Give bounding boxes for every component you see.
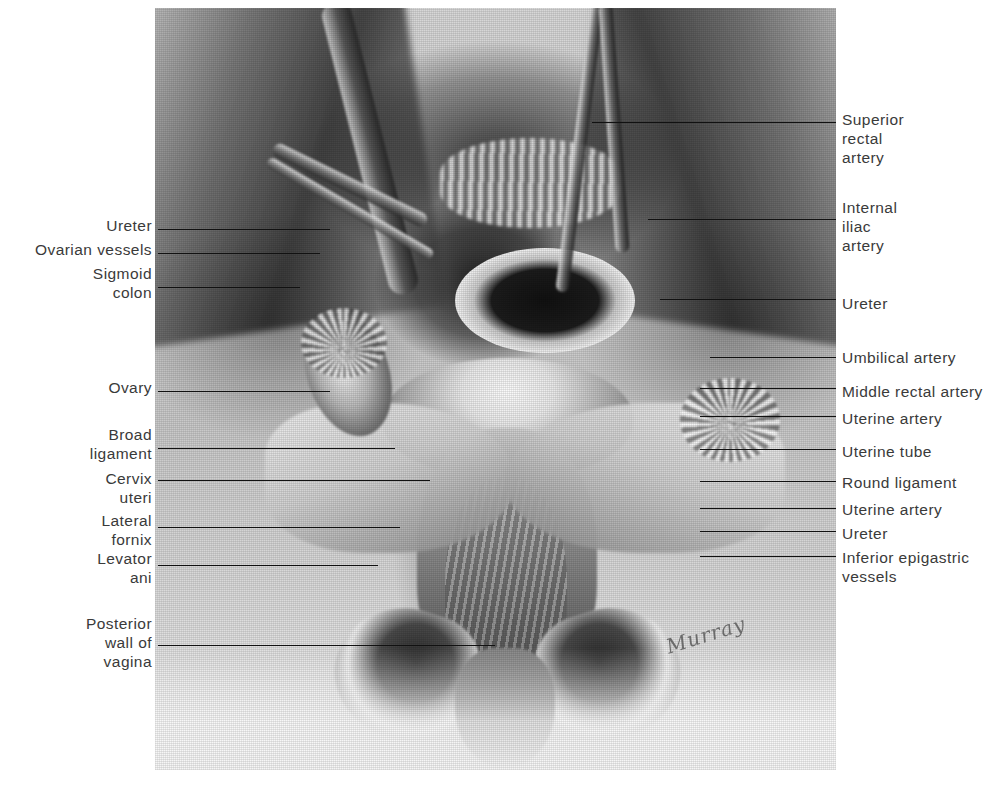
label-round-ligament: Round ligament bbox=[842, 473, 957, 492]
label-internal-iliac-artery: Internal iliac artery bbox=[842, 198, 897, 255]
leader-line-ureter bbox=[158, 229, 330, 230]
leader-line-ureter-right bbox=[660, 299, 836, 300]
label-ureter-lower-right: Ureter bbox=[842, 524, 888, 543]
label-cervix-uteri: Cervix uteri bbox=[105, 469, 152, 507]
leader-line-broad-ligament bbox=[158, 448, 395, 449]
label-uterine-artery-lower: Uterine artery bbox=[842, 500, 942, 519]
leader-line-round-ligament bbox=[700, 481, 836, 482]
leader-line-internal-iliac-artery bbox=[648, 219, 836, 220]
label-ovary: Ovary bbox=[108, 378, 152, 397]
label-superior-rectal-artery: Superior rectal artery bbox=[842, 110, 904, 167]
leader-line-sigmoid-colon bbox=[158, 287, 300, 288]
label-umbilical-artery: Umbilical artery bbox=[842, 348, 956, 367]
leader-line-middle-rectal-artery bbox=[700, 388, 836, 389]
leader-line-uterine-artery-upper bbox=[700, 416, 836, 417]
label-broad-ligament: Broad ligament bbox=[90, 425, 152, 463]
leader-line-uterine-tube bbox=[700, 449, 836, 450]
leader-line-ovarian-vessels bbox=[158, 253, 320, 254]
label-uterine-artery-upper: Uterine artery bbox=[842, 409, 942, 428]
label-uterine-tube: Uterine tube bbox=[842, 442, 932, 461]
leader-line-inferior-epigastric-vessels bbox=[700, 556, 836, 557]
leader-line-uterine-artery-lower bbox=[700, 508, 836, 509]
leader-line-ovary bbox=[158, 391, 330, 392]
leader-line-posterior-wall-of-vagina bbox=[158, 645, 495, 646]
leader-line-cervix-uteri bbox=[158, 480, 430, 481]
label-ureter-right: Ureter bbox=[842, 294, 888, 313]
leader-line-umbilical-artery bbox=[710, 357, 836, 358]
label-ureter: Ureter bbox=[106, 216, 152, 235]
leader-line-levator-ani bbox=[158, 565, 378, 566]
leader-line-ureter-lower-right bbox=[700, 531, 836, 532]
label-levator-ani: Levator ani bbox=[97, 549, 152, 587]
leader-line-superior-rectal-artery bbox=[592, 122, 836, 123]
label-inferior-epigastric-vessels: Inferior epigastric vessels bbox=[842, 548, 969, 586]
label-lateral-fornix: Lateral fornix bbox=[101, 511, 152, 549]
label-ovarian-vessels: Ovarian vessels bbox=[35, 240, 152, 259]
label-posterior-wall-of-vagina: Posterior wall of vagina bbox=[86, 614, 152, 671]
leader-line-lateral-fornix bbox=[158, 527, 400, 528]
label-sigmoid-colon: Sigmoid colon bbox=[93, 264, 152, 302]
label-middle-rectal-artery: Middle rectal artery bbox=[842, 382, 983, 401]
